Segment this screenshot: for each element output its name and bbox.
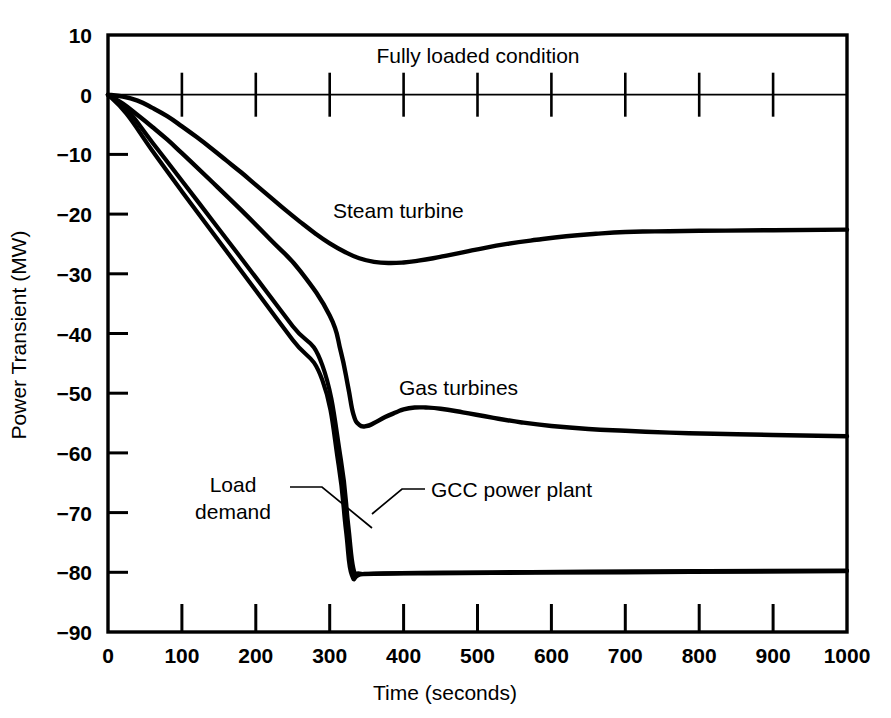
y-tick-label: −40 — [56, 323, 92, 346]
x-tick-label: 500 — [460, 644, 495, 667]
x-tick-label: 0 — [102, 644, 114, 667]
y-tick-label: −70 — [56, 502, 92, 525]
x-tick-label: 600 — [534, 644, 569, 667]
power-transient-line-chart: 100−10−20−30−40−50−60−70−80−90 010020030… — [0, 0, 891, 718]
x-tick-label: 200 — [238, 644, 273, 667]
x-tick-label: 900 — [756, 644, 791, 667]
x-tick-label: 800 — [682, 644, 717, 667]
x-tick-label: 400 — [386, 644, 421, 667]
y-tick-label: −10 — [56, 143, 92, 166]
y-tick-label: −20 — [56, 203, 92, 226]
fully-loaded-condition-label: Fully loaded condition — [376, 44, 579, 67]
x-tick-label: 300 — [312, 644, 347, 667]
x-tick-label: 100 — [164, 644, 199, 667]
y-axis-title: Power Transient (MW) — [7, 231, 30, 440]
y-tick-label: −90 — [56, 621, 92, 644]
gas-turbines-label: Gas turbines — [399, 376, 518, 399]
steam-turbine-label: Steam turbine — [333, 199, 464, 222]
y-tick-label: 0 — [80, 84, 92, 107]
y-tick-label: −60 — [56, 442, 92, 465]
load-demand-label-line2: demand — [195, 500, 271, 523]
y-tick-label: −30 — [56, 263, 92, 286]
x-axis-title: Time (seconds) — [373, 681, 517, 704]
gcc-power-plant-label: GCC power plant — [431, 478, 592, 501]
x-tick-label: 1000 — [824, 644, 871, 667]
y-tick-label: 10 — [69, 24, 92, 47]
y-tick-label: −50 — [56, 382, 92, 405]
y-tick-label: −80 — [56, 561, 92, 584]
chart-figure: 100−10−20−30−40−50−60−70−80−90 010020030… — [0, 0, 891, 718]
load-demand-label-line1: Load — [210, 473, 257, 496]
chart-background — [0, 0, 891, 718]
x-tick-label: 700 — [608, 644, 643, 667]
